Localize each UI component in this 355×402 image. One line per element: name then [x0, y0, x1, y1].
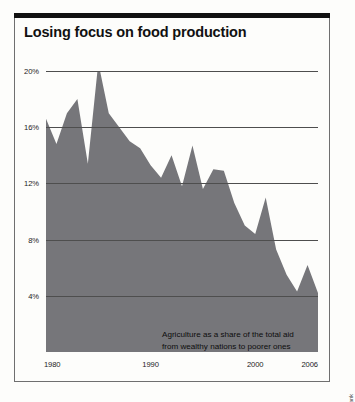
- x-axis-tick-label: 2000: [247, 360, 264, 369]
- gridline-20pct: 20%: [46, 71, 318, 72]
- gridline-12pct: 12%: [46, 183, 318, 184]
- area-fill-path: [46, 71, 318, 352]
- y-axis-tick-label: 16%: [24, 123, 39, 132]
- y-axis-tick-label: 12%: [24, 179, 39, 188]
- x-axis-tick-label: 1990: [142, 360, 159, 369]
- y-axis-tick-label: 20%: [24, 67, 39, 76]
- gridline-8pct: 8%: [46, 240, 318, 241]
- gridline-16pct: 16%: [46, 127, 318, 128]
- gridline-4pct: 4%: [46, 296, 318, 297]
- x-axis-tick-label: 1980: [44, 360, 61, 369]
- x-axis-tick-label: 2006: [302, 360, 319, 369]
- plot-area: Agriculture as a share of the total aid …: [46, 71, 318, 352]
- top-rule-divider: [14, 13, 330, 18]
- y-axis-tick-label: 8%: [28, 235, 39, 244]
- chart-figure: Losing focus on food production Agricult…: [0, 0, 355, 402]
- chart-title: Losing focus on food production: [24, 24, 246, 40]
- source-note: Sources: OECD, FAO, US Department of Foo…: [348, 394, 354, 402]
- annotation-line-1: Agriculture as a share of the total aid: [162, 329, 294, 341]
- chart-annotation: Agriculture as a share of the total aid …: [162, 329, 294, 352]
- annotation-line-2: from wealthy nations to poorer ones: [162, 341, 294, 353]
- y-axis-tick-label: 4%: [28, 291, 39, 300]
- area-series: [46, 71, 318, 352]
